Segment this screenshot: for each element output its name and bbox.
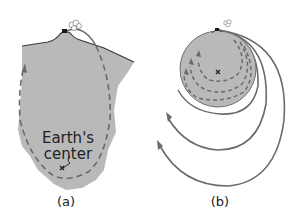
earth-cross-section <box>18 32 134 190</box>
panel-b <box>157 20 284 186</box>
label-line-1: Earth's <box>38 130 98 146</box>
earth-center-label: Earth's center <box>38 130 98 162</box>
label-line-2: center <box>38 146 98 162</box>
cannon-icon <box>62 29 67 33</box>
small-earth <box>180 31 256 107</box>
caption-b: (b) <box>208 194 232 209</box>
arrow-icon <box>166 112 172 122</box>
diagram-canvas <box>0 0 302 217</box>
panel-a <box>18 20 134 190</box>
caption-a: (a) <box>54 194 78 209</box>
cannon-icon <box>215 28 219 31</box>
smoke-puff-icon <box>224 20 231 27</box>
